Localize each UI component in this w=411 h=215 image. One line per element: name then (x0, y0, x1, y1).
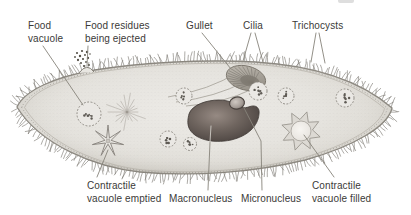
cropped-artifact (338, 0, 354, 3)
label-food-residues: Food residues being ejected (85, 19, 151, 45)
leader-trichocysts (311, 33, 325, 63)
label-cilia: Cilia (243, 19, 263, 32)
ejection-pore (74, 50, 94, 73)
label-contractile-vacuole-emptied: Contractile vacuole emptied (87, 179, 165, 205)
label-micronucleus: Micronucleus (241, 192, 301, 205)
label-trichocysts: Trichocysts (292, 19, 343, 32)
label-macronucleus: Macronucleus (169, 192, 232, 205)
food-residue-dots (74, 50, 91, 67)
label-gullet: Gullet (186, 19, 213, 32)
label-food-vacuole: Food vacuole (28, 19, 72, 45)
label-contractile-vacuole-filled: Contractile vacuole filled (312, 179, 380, 205)
paramecium-diagram: Food vacuole Food residues being ejected… (0, 0, 411, 215)
leader-food-residues (87, 46, 88, 66)
